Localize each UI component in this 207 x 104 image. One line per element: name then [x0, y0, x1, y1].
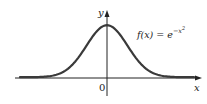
- x-axis-label: x: [194, 82, 200, 93]
- function-label-exponent-power: 2: [181, 25, 185, 31]
- x-axis-arrow-icon: [195, 76, 202, 81]
- y-axis-arrow-icon: [105, 10, 110, 17]
- origin-label: 0: [99, 82, 105, 93]
- function-label: f(x) = e−x2: [136, 25, 185, 40]
- function-label-main: f(x) = e: [136, 29, 173, 40]
- function-label-exponent: −x: [173, 27, 182, 35]
- gaussian-plot: y x 0 f(x) = e−x2: [0, 0, 207, 104]
- y-axis-label: y: [97, 7, 104, 18]
